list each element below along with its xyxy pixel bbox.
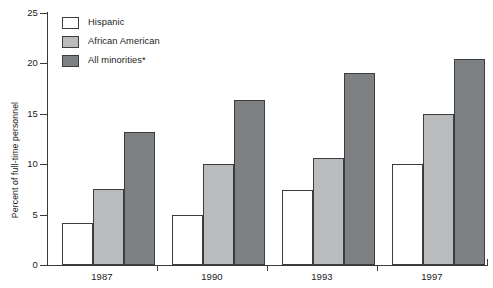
bar xyxy=(423,114,454,265)
y-axis-tick-label: 20 xyxy=(0,58,38,68)
legend-item-label: All minorities* xyxy=(88,55,146,66)
x-axis-end-tick xyxy=(487,259,488,266)
y-axis-tick-label: 15 xyxy=(0,109,38,119)
y-axis-tick xyxy=(40,114,47,115)
y-axis-tick-label: 0 xyxy=(0,260,38,270)
legend-item: African American xyxy=(62,32,160,51)
x-axis-group-separator xyxy=(267,265,268,271)
y-axis-tick xyxy=(40,13,47,14)
x-axis-tick-label: 1997 xyxy=(377,272,487,282)
bar xyxy=(344,73,375,265)
legend-item-label: Hispanic xyxy=(88,17,124,28)
legend-item: Hispanic xyxy=(62,13,160,32)
y-axis-tick-label: 10 xyxy=(0,159,38,169)
bar xyxy=(203,164,234,265)
legend-swatch-icon xyxy=(62,36,79,48)
bar xyxy=(234,100,265,265)
bar xyxy=(454,59,485,265)
y-axis-tick xyxy=(40,215,47,216)
legend-swatch-icon xyxy=(62,55,79,67)
x-axis-group-separator xyxy=(157,265,158,271)
x-axis-group-separator xyxy=(377,265,378,271)
x-axis-tick-label: 1990 xyxy=(157,272,267,282)
chart-legend: Hispanic African American All minorities… xyxy=(62,13,160,70)
bar xyxy=(282,190,313,265)
bar-chart: Percent of full-time personnel 051015202… xyxy=(0,0,493,288)
bar xyxy=(93,189,124,265)
bar xyxy=(172,215,203,265)
y-axis-tick xyxy=(40,265,47,266)
y-axis-tick xyxy=(40,164,47,165)
bar xyxy=(124,132,155,265)
x-axis-tick-label: 1993 xyxy=(267,272,377,282)
legend-item-label: African American xyxy=(88,36,160,47)
y-axis-tick xyxy=(40,63,47,64)
x-axis-tick-label: 1987 xyxy=(47,272,157,282)
bar xyxy=(62,223,93,265)
y-axis-tick-label: 5 xyxy=(0,210,38,220)
bar xyxy=(313,158,344,265)
legend-item: All minorities* xyxy=(62,51,160,70)
y-axis-tick-label: 25 xyxy=(0,8,38,18)
bar xyxy=(392,164,423,265)
legend-swatch-icon xyxy=(62,17,79,29)
